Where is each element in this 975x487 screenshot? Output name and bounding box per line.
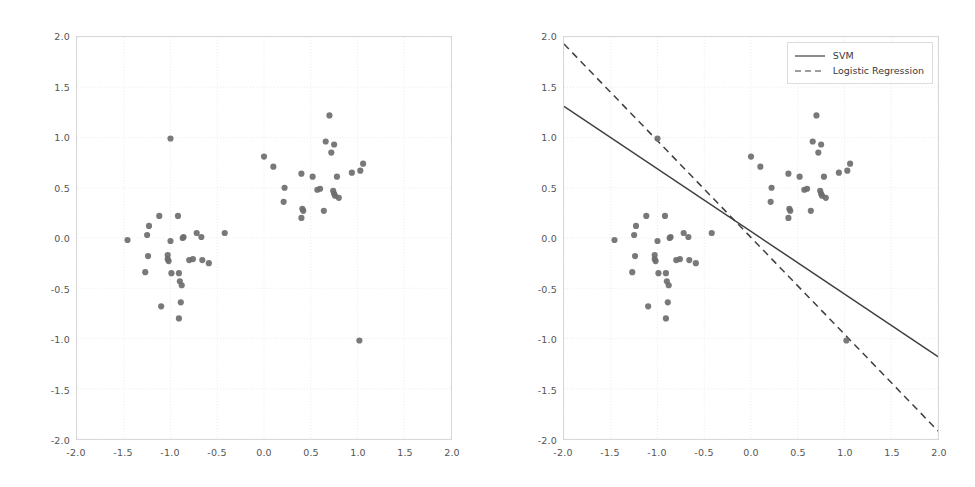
y-tick-label: 1.5 (525, 81, 557, 92)
axes-left (76, 36, 452, 440)
scatter-points-left (124, 112, 366, 343)
plot-area-left (77, 37, 451, 439)
y-tick-label: 2.0 (525, 31, 557, 42)
x-tick-label: 0.5 (790, 447, 806, 458)
plot-area-right (564, 37, 938, 439)
legend-item-logistic-regression[interactable]: Logistic Regression (794, 63, 924, 78)
y-tick-label: -1.0 (525, 334, 557, 345)
legend-item-svm[interactable]: SVM (794, 48, 924, 63)
x-tick-label: 0.5 (303, 447, 319, 458)
figure-canvas: 2.01.51.00.50.0-0.5-1.0-1.5-2.0 -2.0-1.5… (0, 0, 975, 487)
y-tick-label: 1.0 (38, 132, 70, 143)
y-tick-label: 0.5 (38, 182, 70, 193)
legend-key-solid-line (794, 51, 826, 61)
x-tick-label: 1.5 (884, 447, 900, 458)
y-tick-label: 1.0 (525, 132, 557, 143)
y-tick-label: 2.0 (38, 31, 70, 42)
x-tick-label: -1.0 (647, 447, 666, 458)
legend-label-svm: SVM (833, 50, 854, 61)
x-tick-label: -2.0 (66, 447, 85, 458)
y-tick-label: 0.0 (525, 233, 557, 244)
x-tick-label: 2.0 (931, 447, 947, 458)
x-tick-label: -2.0 (553, 447, 572, 458)
x-tick-label: -1.0 (160, 447, 179, 458)
x-tick-label: -0.5 (207, 447, 226, 458)
decision-boundary-lines (564, 44, 938, 431)
x-tick-label: 0.0 (743, 447, 759, 458)
x-tick-label: 1.5 (397, 447, 413, 458)
y-tick-label: -1.0 (38, 334, 70, 345)
y-tick-label: -2.0 (38, 435, 70, 446)
x-tick-label: 2.0 (444, 447, 460, 458)
scatter-points-right (611, 112, 853, 343)
legend-box: SVM Logistic Regression (787, 42, 933, 84)
y-tick-label: 0.0 (38, 233, 70, 244)
legend-label-logistic-regression: Logistic Regression (833, 65, 924, 76)
axes-right: SVM Logistic Regression (563, 36, 939, 440)
y-tick-label: -0.5 (525, 283, 557, 294)
y-tick-label: -1.5 (38, 384, 70, 395)
panel-with-decision-boundaries: SVM Logistic Regression 2.01.51.00.50.0-… (487, 0, 974, 487)
gridlines-left (77, 37, 451, 439)
x-tick-label: -0.5 (694, 447, 713, 458)
x-tick-label: 0.0 (256, 447, 272, 458)
x-tick-label: -1.5 (113, 447, 132, 458)
y-tick-label: -2.0 (525, 435, 557, 446)
y-tick-label: 1.5 (38, 81, 70, 92)
y-tick-label: -1.5 (525, 384, 557, 395)
x-tick-label: 1.0 (350, 447, 366, 458)
legend-key-dashed-line (794, 66, 826, 76)
panel-scatter-only: 2.01.51.00.50.0-0.5-1.0-1.5-2.0 -2.0-1.5… (0, 0, 487, 487)
y-tick-label: 0.5 (525, 182, 557, 193)
x-tick-label: -1.5 (600, 447, 619, 458)
x-tick-label: 1.0 (837, 447, 853, 458)
y-tick-label: -0.5 (38, 283, 70, 294)
